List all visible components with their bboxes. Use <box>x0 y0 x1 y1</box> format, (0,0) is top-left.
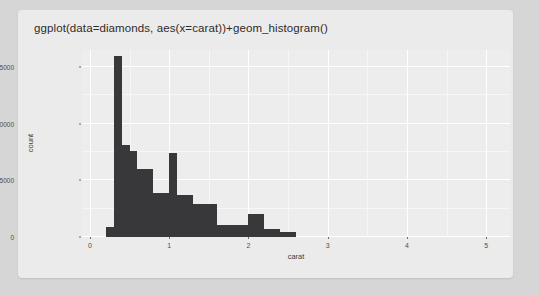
x-tick-label: 4 <box>405 242 409 249</box>
y-tick-label: 15000 <box>0 64 14 71</box>
histogram-bar <box>248 214 264 237</box>
x-tick-label: 1 <box>167 242 171 249</box>
y-tick-label: 10000 <box>0 120 14 127</box>
x-tick-mark <box>90 237 91 239</box>
gridline-x-minor <box>288 50 289 237</box>
histogram-bar <box>114 56 122 237</box>
y-axis-label: count <box>26 134 35 152</box>
gridline-x-minor <box>367 50 368 237</box>
y-tick-label: 5000 <box>0 177 14 184</box>
histogram-bar <box>169 153 177 237</box>
histogram-bar <box>130 151 138 237</box>
histogram-bar <box>264 229 280 237</box>
histogram-bar <box>161 193 169 237</box>
y-tick-mark <box>79 67 81 68</box>
x-tick-label: 3 <box>326 242 330 249</box>
code-title: ggplot(data=diamonds, aes(x=carat))+geom… <box>34 22 328 34</box>
gridline-x <box>248 50 249 237</box>
histogram-bar <box>122 145 130 237</box>
x-tick-mark <box>248 237 249 239</box>
histogram-bar <box>233 225 249 237</box>
x-tick-mark <box>486 237 487 239</box>
y-tick-mark <box>79 237 81 238</box>
y-tick-label: 0 <box>0 234 14 241</box>
x-tick-mark <box>328 237 329 239</box>
x-tick-label: 5 <box>484 242 488 249</box>
y-tick-mark <box>79 123 81 124</box>
histogram-bar <box>193 204 209 237</box>
histogram-bar <box>145 169 153 237</box>
x-tick-mark <box>407 237 408 239</box>
plot-card: ggplot(data=diamonds, aes(x=carat))+geom… <box>18 10 513 278</box>
histogram-bar <box>209 204 217 237</box>
gridline-x <box>486 50 487 237</box>
histogram-bar <box>106 227 114 237</box>
x-tick-label: 2 <box>246 242 250 249</box>
histogram-bar <box>153 193 161 237</box>
gridline-x-minor <box>447 50 448 237</box>
histogram-bar <box>217 225 233 237</box>
x-axis-label: carat <box>288 252 305 261</box>
y-tick-mark <box>79 180 81 181</box>
gridline-x <box>328 50 329 237</box>
gridline-x <box>407 50 408 237</box>
plot-panel <box>82 50 510 237</box>
gridline-x <box>90 50 91 237</box>
histogram-bar <box>185 195 193 237</box>
histogram-bar <box>280 232 296 237</box>
histogram-bar <box>177 195 185 237</box>
x-tick-mark <box>169 237 170 239</box>
histogram-plot: count carat 050001000015000 012345 <box>36 40 496 264</box>
histogram-bar <box>137 169 145 237</box>
x-tick-label: 0 <box>88 242 92 249</box>
